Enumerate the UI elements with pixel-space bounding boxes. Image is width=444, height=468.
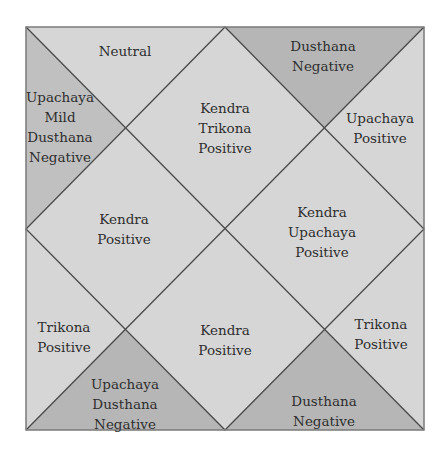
house-label-left-lower: Trikona Positive [37, 317, 90, 357]
house-label-top-left: Neutral [99, 41, 152, 61]
house-label-top-right: Dusthana Negative [290, 36, 355, 76]
house-label-center-left: Kendra Positive [97, 209, 150, 249]
house-label-center-top: Kendra Trikona Positive [198, 98, 251, 158]
house-label-left-upper: Upachaya Mild Dusthana Negative [26, 87, 94, 167]
house-chart-diagram [0, 0, 444, 468]
house-label-bottom-left: Upachaya Dusthana Negative [91, 374, 159, 434]
house-label-bottom-right: Dusthana Negative [291, 391, 356, 431]
house-label-right-lower: Trikona Positive [354, 314, 407, 354]
house-label-right-upper: Upachaya Positive [346, 108, 414, 148]
house-label-center-right: Kendra Upachaya Positive [288, 202, 356, 262]
house-label-center-bottom: Kendra Positive [198, 320, 251, 360]
